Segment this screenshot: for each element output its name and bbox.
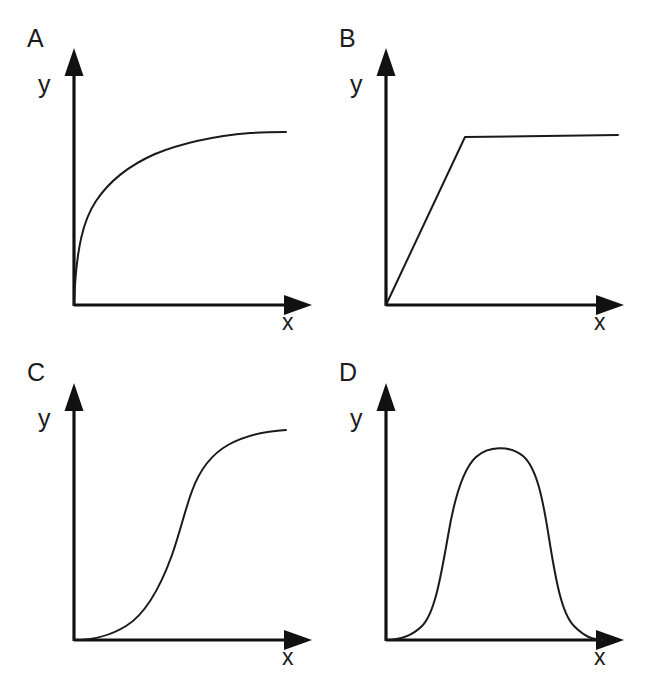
panel-c-plot <box>0 350 328 699</box>
panel-a: A y x <box>0 0 328 349</box>
saturating-curve <box>74 132 286 305</box>
linear-then-plateau-curve <box>386 135 618 305</box>
panel-d-label: D <box>339 360 357 385</box>
y-axis-arrowhead-icon <box>377 48 396 76</box>
panel-b: B y x <box>328 0 656 349</box>
sigmoid-curve <box>74 430 286 640</box>
y-axis-arrowhead-icon <box>65 383 84 411</box>
bell-shaped-peak-curve <box>386 448 604 640</box>
panel-c-x-axis-label: x <box>282 646 294 669</box>
y-axis-arrowhead-icon <box>65 48 84 76</box>
panel-d-y-axis-label: y <box>350 406 363 431</box>
panel-a-y-axis-label: y <box>38 72 51 97</box>
panel-b-plot <box>328 0 656 349</box>
panel-c-y-axis-label: y <box>38 406 51 431</box>
panel-d-x-axis-label: x <box>594 646 606 669</box>
figure-panel-grid: A y x B y x C y <box>0 0 656 699</box>
panel-a-x-axis-label: x <box>282 311 294 334</box>
panel-b-label: B <box>339 26 356 51</box>
panel-d-plot <box>328 350 656 699</box>
panel-c: C y x <box>0 350 328 699</box>
panel-b-x-axis-label: x <box>594 311 606 334</box>
panel-b-y-axis-label: y <box>350 72 363 97</box>
panel-a-plot <box>0 0 328 349</box>
panel-d: D y x <box>328 350 656 699</box>
panel-c-label: C <box>27 360 45 385</box>
panel-a-label: A <box>27 26 44 51</box>
y-axis-arrowhead-icon <box>377 383 396 411</box>
